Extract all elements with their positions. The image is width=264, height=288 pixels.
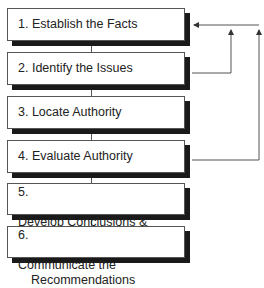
- step-1-establish-facts: 1. Establish the Facts: [7, 8, 185, 41]
- step-3-locate-authority: 3. Locate Authority: [7, 96, 185, 129]
- step-4-evaluate-authority: 4. Evaluate Authority: [7, 140, 185, 173]
- step-number: 6.: [18, 228, 184, 243]
- step-number: 5.: [18, 185, 184, 200]
- step-label: Communicate the: [18, 258, 184, 273]
- step-5-develop-conclusions: 5. Develop Conclusions & Recommendations: [7, 183, 185, 215]
- step-label-line2: Recommendations: [18, 273, 184, 288]
- step-number: 4.: [18, 149, 28, 164]
- step-2-identify-issues: 2. Identify the Issues: [7, 52, 185, 85]
- step-number: 3.: [18, 105, 28, 120]
- step-label: Identify the Issues: [32, 61, 133, 76]
- step-label: Establish the Facts: [32, 17, 138, 32]
- step-label: Locate Authority: [32, 105, 122, 120]
- step-number: 2.: [18, 61, 28, 76]
- step-label: Evaluate Authority: [32, 149, 133, 164]
- step-6-communicate-recommendations: 6. Communicate the Recommendations: [7, 226, 185, 258]
- step-number: 1.: [18, 17, 28, 32]
